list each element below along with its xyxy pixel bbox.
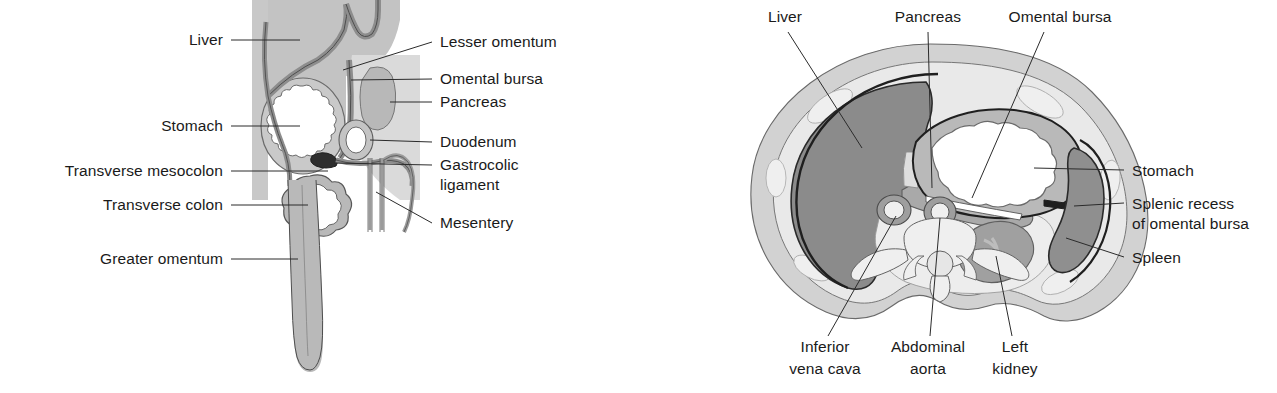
label-lesser-omentum: Lesser omentum — [440, 33, 557, 50]
label-transverse-mesocolon: Transverse mesocolon — [65, 162, 223, 179]
label-gastrocolic-ligament-line2: ligament — [440, 176, 500, 193]
label-mesentery: Mesentery — [440, 214, 513, 231]
transverse-section-panel: Liver Pancreas Omental bursa Stomach Spl… — [640, 0, 1277, 393]
inferior-vena-cava-lumen — [884, 201, 904, 219]
label-pancreas: Pancreas — [440, 93, 506, 110]
label-omental-bursa: Omental bursa — [440, 70, 543, 87]
label-left-kidney-line1: Left — [1002, 338, 1029, 355]
anatomy-figure: Liver Stomach Transverse mesocolon Trans… — [0, 0, 1277, 393]
label-inferior-vena-cava-line2: vena cava — [789, 360, 861, 377]
label-stomach: Stomach — [1132, 162, 1194, 179]
pancreas-shape — [360, 67, 396, 130]
label-stomach: Stomach — [161, 117, 223, 134]
label-inferior-vena-cava-line1: Inferior — [800, 338, 849, 355]
label-gastrocolic-ligament-line1: Gastrocolic — [440, 156, 519, 173]
label-liver: Liver — [189, 31, 223, 48]
transverse-diagram: Liver Pancreas Omental bursa Stomach Spl… — [640, 0, 1277, 393]
sagittal-diagram: Liver Stomach Transverse mesocolon Trans… — [0, 0, 640, 393]
label-abdominal-aorta-line2: aorta — [910, 360, 946, 377]
label-left-kidney-line2: kidney — [992, 360, 1038, 377]
label-splenic-recess-line1: Splenic recess — [1132, 195, 1234, 212]
label-greater-omentum: Greater omentum — [100, 250, 223, 267]
label-omental-bursa: Omental bursa — [1009, 8, 1112, 25]
vertebral-canal — [927, 251, 953, 277]
label-liver: Liver — [768, 8, 802, 25]
label-splenic-recess-line2: of omental bursa — [1132, 215, 1249, 232]
label-spleen: Spleen — [1132, 249, 1181, 266]
label-abdominal-aorta-line1: Abdominal — [891, 338, 965, 355]
duodenum-lumen — [346, 127, 366, 153]
label-duodenum: Duodenum — [440, 133, 517, 150]
sagittal-section-panel: Liver Stomach Transverse mesocolon Trans… — [0, 0, 640, 393]
label-pancreas: Pancreas — [895, 8, 961, 25]
label-transverse-colon: Transverse colon — [103, 196, 223, 213]
